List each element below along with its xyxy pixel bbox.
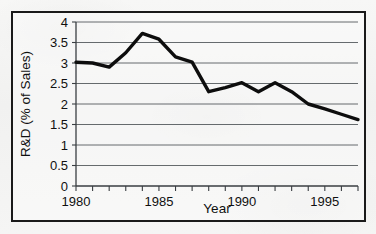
y-axis-tick-labels: 00.511.522.533.54 — [50, 15, 68, 194]
y-tick-label: 1 — [61, 138, 68, 153]
y-tick-label: 0.5 — [50, 158, 68, 173]
y-tick-label: 2 — [61, 97, 68, 112]
data-series-line — [76, 33, 358, 119]
y-tick-label: 0 — [61, 179, 68, 194]
x-tick-label: 1980 — [62, 194, 91, 209]
x-axis-tick-marks — [76, 186, 358, 191]
line-chart: 00.511.522.533.54 1980198519901995 R&D (… — [0, 0, 376, 234]
y-tick-label: 4 — [61, 15, 68, 30]
y-axis-title: R&D (% of Sales) — [18, 51, 33, 157]
x-tick-label: 1985 — [144, 194, 173, 209]
gridlines — [76, 22, 358, 166]
y-tick-label: 2.5 — [50, 76, 68, 91]
x-axis-title: Year — [203, 201, 231, 216]
x-tick-label: 1995 — [310, 194, 339, 209]
y-tick-label: 3.5 — [50, 35, 68, 50]
x-tick-label: 1990 — [227, 194, 256, 209]
y-tick-label: 3 — [61, 56, 68, 71]
y-tick-label: 1.5 — [50, 117, 68, 132]
x-axis-tick-labels: 1980198519901995 — [62, 194, 340, 209]
